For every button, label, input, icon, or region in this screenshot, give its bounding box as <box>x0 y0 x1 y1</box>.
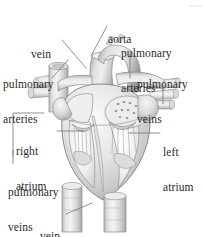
label-left-atrium-line-1: left <box>163 147 194 159</box>
label-right-atrium-line-1: right <box>16 146 47 158</box>
label-pulmonary-veins-left-line-1: pulmonary <box>8 187 59 199</box>
label-pulmonary-veins-right-line-1: pulmonary <box>137 79 188 91</box>
label-vein-bottom: vein <box>40 208 60 237</box>
label-left-atrium-line-2: atrium <box>163 182 194 194</box>
heart-anatomy-figure: vein aorta pulmonary arteries pulmonary … <box>0 0 203 237</box>
label-left-atrium: left atrium <box>163 123 194 217</box>
label-pulmonary-arteries-left-line-1: pulmonary <box>3 79 54 91</box>
label-vein-bottom-line-1: vein <box>40 231 60 237</box>
